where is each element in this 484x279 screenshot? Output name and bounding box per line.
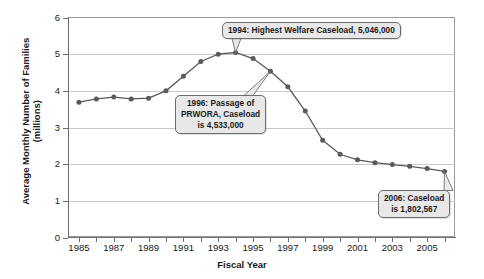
- y-axis-title: Average Monthly Number of Families (mill…: [20, 21, 42, 221]
- chart-figure: 0123456 19851987198919911993199519971999…: [0, 0, 484, 279]
- callout-tail: [444, 171, 453, 190]
- callout-tail: [232, 39, 241, 53]
- callout-peak-text: 1994: Highest Welfare Caseload, 5,046,00…: [228, 25, 395, 35]
- callout-prwora-line2: PRWORA, Caseload: [181, 109, 260, 120]
- callout-latest-line2: is 1,802,567: [384, 204, 444, 215]
- callout-prwora-line3: is 4,533,000: [181, 120, 260, 131]
- y-axis-title-line2: (millions): [31, 21, 42, 221]
- y-axis-title-line1: Average Monthly Number of Families: [20, 21, 31, 221]
- callout-tail: [244, 71, 270, 95]
- callout-latest-2006: 2006: Caseload is 1,802,567: [378, 190, 450, 218]
- callout-leader-lines: [0, 0, 484, 279]
- x-axis-title: Fiscal Year: [0, 259, 484, 270]
- callout-latest-line1: 2006: Caseload: [384, 193, 444, 204]
- callout-prwora-1996: 1996: Passage of PRWORA, Caseload is 4,5…: [175, 95, 266, 134]
- callout-prwora-line1: 1996: Passage of: [181, 98, 260, 109]
- callout-peak-1994: 1994: Highest Welfare Caseload, 5,046,00…: [222, 22, 401, 39]
